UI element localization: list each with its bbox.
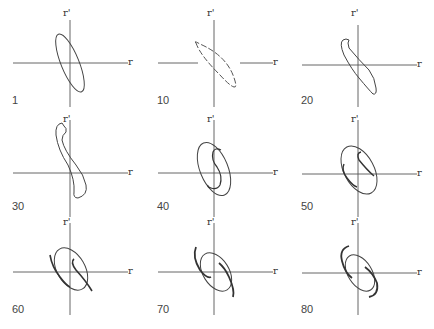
y-axis-label: r' — [207, 113, 215, 124]
y-axis-label: r' — [63, 7, 71, 18]
phase-plot-60: r' r 60 — [0, 215, 145, 325]
panel-label: 80 — [301, 303, 313, 315]
phase-plot-70: r' r 70 — [145, 215, 290, 325]
panel-label: 10 — [157, 94, 169, 106]
y-axis-label: r' — [207, 7, 215, 18]
phase-plot-40: r' r 40 — [145, 110, 290, 220]
x-axis-label: r — [273, 166, 278, 177]
phase-plot-10: r' r 10 — [145, 0, 290, 110]
x-axis-label: r — [128, 166, 133, 177]
y-axis-label: r' — [207, 216, 215, 227]
panel-label: 30 — [12, 200, 24, 212]
phase-plot-1-graphic — [0, 0, 145, 110]
x-axis-label: r — [128, 265, 133, 276]
x-axis-label: r — [417, 167, 422, 178]
y-axis-label: r' — [351, 216, 359, 227]
phase-plot-80: r' r 80 — [289, 215, 434, 325]
x-axis-label: r — [417, 58, 422, 69]
panel-label: 1 — [12, 94, 18, 106]
panel-label: 60 — [12, 303, 24, 315]
y-axis-label: r' — [351, 113, 359, 124]
x-axis-label: r — [417, 266, 422, 277]
panel-label: 70 — [157, 303, 169, 315]
x-axis-label: r — [273, 56, 278, 67]
panel-label: 20 — [301, 94, 313, 106]
x-axis-label: r — [128, 56, 133, 67]
y-axis-label: r' — [63, 113, 71, 124]
phase-plot-50: r' r 50 — [289, 110, 434, 220]
panel-label: 50 — [301, 200, 313, 212]
phase-plot-30: r' r 30 — [0, 110, 145, 220]
y-axis-label: r' — [63, 216, 71, 227]
y-axis-label: r' — [351, 7, 359, 18]
phase-plot-20: r' r 20 — [289, 0, 434, 110]
panel-label: 40 — [157, 200, 169, 212]
x-axis-label: r — [273, 265, 278, 276]
phase-plot-1: r' r 1 — [0, 0, 145, 110]
